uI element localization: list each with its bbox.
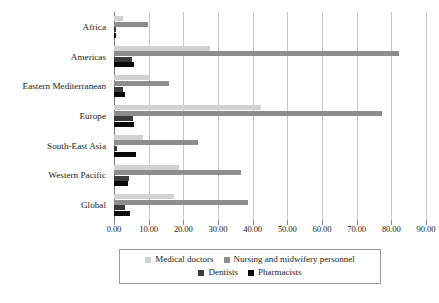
x-axis-tick-labels: 0.0010.0020.0030.0040.0050.0060.0070.008… bbox=[0, 224, 439, 238]
plot-area: AfricaAmericasEastern MediterraneanEurop… bbox=[0, 0, 439, 240]
bar-group bbox=[114, 16, 426, 38]
bar-group bbox=[114, 75, 426, 97]
bar bbox=[114, 92, 125, 97]
bar-group bbox=[114, 135, 426, 157]
bar bbox=[114, 46, 210, 51]
bar bbox=[114, 75, 150, 80]
bar bbox=[114, 205, 125, 210]
legend-swatch-icon bbox=[198, 270, 204, 276]
bar bbox=[114, 181, 128, 186]
bar bbox=[114, 140, 198, 145]
bar bbox=[114, 22, 148, 27]
bar bbox=[114, 81, 169, 86]
category-label: Americas bbox=[71, 52, 106, 62]
bar bbox=[114, 33, 116, 38]
legend-label: Nursing and midwifery personnel bbox=[234, 254, 355, 265]
bar bbox=[114, 152, 136, 157]
legend-swatch-icon bbox=[248, 270, 254, 276]
bar bbox=[114, 135, 143, 140]
legend-label: Medical doctors bbox=[155, 254, 213, 265]
bar bbox=[114, 27, 116, 32]
bar bbox=[114, 146, 117, 151]
bar-group bbox=[114, 105, 426, 127]
bar bbox=[114, 116, 133, 121]
bar bbox=[114, 165, 179, 170]
gridline bbox=[426, 12, 427, 220]
bar bbox=[114, 51, 399, 56]
category-label: Africa bbox=[83, 22, 106, 32]
bar bbox=[114, 111, 382, 116]
legend-item[interactable]: Medical doctors bbox=[145, 254, 213, 265]
bar bbox=[114, 194, 174, 199]
category-label: Eastern Mediterranean bbox=[23, 81, 106, 91]
category-label: South-East Asia bbox=[47, 141, 106, 151]
legend-row-bottom: DentistsPharmacists bbox=[126, 266, 374, 279]
x-axis-tick-label: 90.00 bbox=[406, 224, 439, 234]
bar bbox=[114, 87, 123, 92]
legend-label: Pharmacists bbox=[258, 267, 302, 278]
bar-chart: AfricaAmericasEastern MediterraneanEurop… bbox=[0, 0, 439, 303]
bar bbox=[114, 105, 261, 110]
category-label: Western Pacific bbox=[48, 170, 106, 180]
bar-group bbox=[114, 165, 426, 187]
bar bbox=[114, 57, 132, 62]
bar-group bbox=[114, 46, 426, 68]
category-label: Europe bbox=[79, 111, 106, 121]
bar bbox=[114, 200, 248, 205]
bar bbox=[114, 16, 123, 21]
bar bbox=[114, 62, 134, 67]
legend-item[interactable]: Pharmacists bbox=[248, 267, 302, 278]
bar bbox=[114, 211, 130, 216]
bar bbox=[114, 122, 134, 127]
category-axis-labels: AfricaAmericasEastern MediterraneanEurop… bbox=[0, 12, 110, 220]
bar-group bbox=[114, 194, 426, 216]
legend-swatch-icon bbox=[224, 257, 230, 263]
legend-swatch-icon bbox=[145, 257, 151, 263]
plot-grid bbox=[114, 12, 426, 220]
bar bbox=[114, 176, 129, 181]
legend-row-top: Medical doctorsNursing and midwifery per… bbox=[126, 253, 374, 266]
legend-item[interactable]: Nursing and midwifery personnel bbox=[224, 254, 355, 265]
legend-label: Dentists bbox=[208, 267, 238, 278]
bar bbox=[114, 170, 241, 175]
category-label: Global bbox=[81, 200, 106, 210]
chart-legend: Medical doctorsNursing and midwifery per… bbox=[119, 249, 381, 284]
legend-item[interactable]: Dentists bbox=[198, 267, 238, 278]
